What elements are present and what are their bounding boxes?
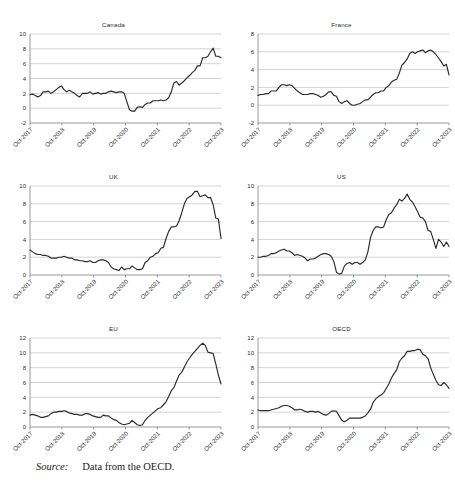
chart-panel-canada: Canada -20246810Oct-2017Oct-2018Oct-2019… — [0, 18, 227, 168]
y-tick-label: -2 — [249, 120, 255, 126]
chart-canvas-oecd: 024681012Oct-2017Oct-2018Oct-2019Oct-202… — [228, 322, 455, 472]
x-tick-label: Oct-2017 — [12, 430, 34, 452]
x-tick-label: Oct-2020 — [108, 430, 130, 452]
y-tick-label: 4 — [251, 395, 255, 401]
y-tick-label: 10 — [247, 350, 254, 356]
x-tick-label: Oct-2017 — [240, 430, 262, 452]
chart-canvas-france: -202468Oct-2017Oct-2018Oct-2019Oct-2020O… — [228, 18, 455, 168]
y-tick-label: 0 — [23, 424, 27, 430]
y-tick-label: 2 — [23, 409, 27, 415]
y-tick-label: 4 — [23, 395, 27, 401]
x-tick-label: Oct-2023 — [203, 278, 225, 300]
x-tick-label: Oct-2017 — [240, 126, 262, 148]
y-tick-label: 10 — [19, 350, 26, 356]
y-tick-label: 4 — [23, 237, 27, 243]
x-tick-label: Oct-2019 — [304, 278, 326, 300]
x-tick-label: Oct-2022 — [399, 126, 421, 148]
y-tick-label: 0 — [251, 424, 255, 430]
x-tick-label: Oct-2022 — [399, 278, 421, 300]
chart-canvas-us: 0246810Oct-2017Oct-2018Oct-2019Oct-2020O… — [228, 170, 455, 320]
x-tick-label: Oct-2018 — [272, 126, 294, 148]
x-tick-label: Oct-2023 — [203, 430, 225, 452]
x-tick-label: Oct-2019 — [304, 126, 326, 148]
chart-canvas-eu: 024681012Oct-2017Oct-2018Oct-2019Oct-202… — [0, 322, 227, 472]
x-tick-label: Oct-2017 — [12, 278, 34, 300]
chart-canvas-canada: -20246810Oct-2017Oct-2018Oct-2019Oct-202… — [0, 18, 227, 168]
x-tick-label: Oct-2018 — [272, 278, 294, 300]
y-tick-label: 6 — [251, 49, 255, 55]
x-tick-label: Oct-2022 — [171, 278, 193, 300]
x-tick-label: Oct-2021 — [367, 278, 389, 300]
x-tick-label: Oct-2020 — [336, 430, 358, 452]
y-tick-label: 6 — [23, 219, 27, 225]
x-tick-label: Oct-2021 — [139, 278, 161, 300]
series-line — [30, 191, 221, 270]
x-tick-label: Oct-2018 — [272, 430, 294, 452]
y-tick-label: 4 — [251, 67, 255, 73]
source-label: Source: — [36, 461, 68, 472]
y-tick-label: 8 — [251, 365, 255, 371]
x-tick-label: Oct-2022 — [171, 430, 193, 452]
x-tick-label: Oct-2023 — [431, 430, 453, 452]
series-line — [258, 194, 449, 274]
y-tick-label: 4 — [23, 76, 27, 82]
x-tick-label: Oct-2020 — [336, 126, 358, 148]
x-tick-label: Oct-2021 — [139, 430, 161, 452]
x-tick-label: Oct-2020 — [108, 278, 130, 300]
y-tick-label: 4 — [251, 237, 255, 243]
y-tick-label: 8 — [251, 31, 255, 37]
series-line — [30, 343, 221, 425]
figure-container: Canada -20246810Oct-2017Oct-2018Oct-2019… — [0, 0, 455, 494]
x-tick-label: Oct-2019 — [76, 278, 98, 300]
y-tick-label: 2 — [251, 85, 255, 91]
y-tick-label: 0 — [251, 102, 255, 108]
y-tick-label: 0 — [23, 272, 27, 278]
x-tick-label: Oct-2023 — [431, 278, 453, 300]
chart-panel-eu: EU 024681012Oct-2017Oct-2018Oct-2019Oct-… — [0, 322, 227, 472]
series-line — [258, 50, 449, 105]
y-tick-label: 12 — [19, 335, 26, 341]
chart-panel-uk: UK 0246810Oct-2017Oct-2018Oct-2019Oct-20… — [0, 170, 227, 320]
series-line — [30, 48, 221, 111]
x-tick-label: Oct-2021 — [139, 126, 161, 148]
y-tick-label: 6 — [251, 219, 255, 225]
x-tick-label: Oct-2023 — [203, 126, 225, 148]
y-tick-label: 8 — [23, 201, 27, 207]
x-tick-label: Oct-2018 — [44, 430, 66, 452]
x-tick-label: Oct-2018 — [44, 278, 66, 300]
x-tick-label: Oct-2021 — [367, 430, 389, 452]
y-tick-label: 8 — [23, 46, 27, 52]
x-tick-label: Oct-2023 — [431, 126, 453, 148]
y-tick-label: 6 — [23, 61, 27, 67]
x-tick-label: Oct-2019 — [304, 430, 326, 452]
chart-panel-france: France -202468Oct-2017Oct-2018Oct-2019Oc… — [228, 18, 455, 168]
x-tick-label: Oct-2020 — [336, 278, 358, 300]
y-tick-label: 10 — [19, 183, 26, 189]
source-text: Data from the OECD. — [82, 461, 174, 472]
x-tick-label: Oct-2021 — [367, 126, 389, 148]
y-tick-label: 2 — [23, 91, 27, 97]
chart-panel-us: US 0246810Oct-2017Oct-2018Oct-2019Oct-20… — [228, 170, 455, 320]
x-tick-label: Oct-2019 — [76, 126, 98, 148]
source-note: Source:Data from the OECD. — [36, 461, 174, 472]
y-tick-label: -2 — [21, 120, 27, 126]
x-tick-label: Oct-2019 — [76, 430, 98, 452]
x-tick-label: Oct-2020 — [108, 126, 130, 148]
x-tick-label: Oct-2018 — [44, 126, 66, 148]
x-tick-label: Oct-2022 — [171, 126, 193, 148]
chart-panel-oecd: OECD 024681012Oct-2017Oct-2018Oct-2019Oc… — [228, 322, 455, 472]
y-tick-label: 12 — [247, 335, 254, 341]
y-tick-label: 6 — [251, 380, 255, 386]
y-tick-label: 2 — [251, 409, 255, 415]
chart-canvas-uk: 0246810Oct-2017Oct-2018Oct-2019Oct-2020O… — [0, 170, 227, 320]
y-tick-label: 8 — [23, 365, 27, 371]
series-line — [258, 349, 449, 422]
y-tick-label: 0 — [23, 105, 27, 111]
y-tick-label: 10 — [19, 31, 26, 37]
y-tick-label: 2 — [251, 254, 255, 260]
x-tick-label: Oct-2017 — [240, 278, 262, 300]
x-tick-label: Oct-2017 — [12, 126, 34, 148]
y-tick-label: 6 — [23, 380, 27, 386]
x-tick-label: Oct-2022 — [399, 430, 421, 452]
y-tick-label: 10 — [247, 183, 254, 189]
